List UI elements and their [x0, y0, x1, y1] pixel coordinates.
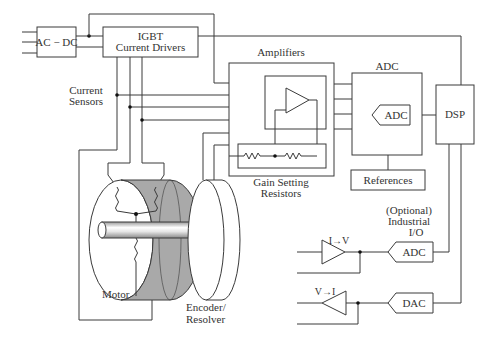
i-to-v-amplifier: I→V — [297, 235, 388, 273]
references-label: References — [364, 174, 413, 186]
references-block: References — [351, 170, 425, 190]
encoder-label-1: Encoder/ — [186, 301, 227, 313]
igbt-label-2: Current Drivers — [116, 41, 185, 53]
io-dac: DAC — [388, 293, 433, 313]
ac-dc-label: AC − DC — [35, 36, 77, 48]
amplifiers-label: Amplifiers — [257, 46, 305, 58]
dsp-block: DSP — [436, 85, 474, 144]
dsp-label: DSP — [445, 108, 465, 120]
current-sensors-label-2: Sensors — [69, 95, 103, 107]
igbt-current-drivers: IGBT Current Drivers — [103, 27, 198, 57]
i-to-v-label: I→V — [329, 235, 350, 246]
io-adc: ADC — [388, 242, 433, 262]
gain-resistors-label-2: Resistors — [261, 187, 301, 199]
io-label-3: I/O — [409, 226, 424, 238]
motor-control-diagram: AC − DC IGBT Current Drivers Current Sen… — [0, 0, 492, 344]
adc-inner-label: ADC — [384, 109, 407, 121]
encoder-label-2: Resolver — [186, 313, 225, 325]
io-dac-label: DAC — [402, 297, 425, 309]
ac-dc-converter: AC − DC — [35, 27, 77, 57]
motor-label: Motor — [102, 288, 130, 300]
adc-block-label: ADC — [375, 60, 398, 72]
v-to-i-label: V→I — [315, 286, 336, 297]
v-to-i-amplifier: V→I — [297, 286, 388, 324]
encoder-resolver: Encoder/ Resolver — [186, 180, 240, 325]
amplifiers-block: Amplifiers — [229, 63, 334, 176]
io-adc-label: ADC — [402, 246, 425, 258]
adc-block: ADC — [352, 73, 422, 155]
motor: Motor — [89, 180, 204, 300]
